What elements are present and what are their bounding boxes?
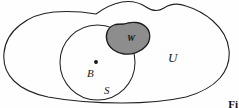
figure-caption: Fi <box>228 99 238 108</box>
label-point: B <box>87 67 94 79</box>
figure-container: U B S W Fi <box>0 0 239 108</box>
set-diagram-svg: U B S W <box>0 0 239 108</box>
label-region: W <box>127 33 136 43</box>
label-subset: S <box>104 84 110 96</box>
label-universe: U <box>168 50 179 65</box>
point-marker <box>94 60 98 64</box>
